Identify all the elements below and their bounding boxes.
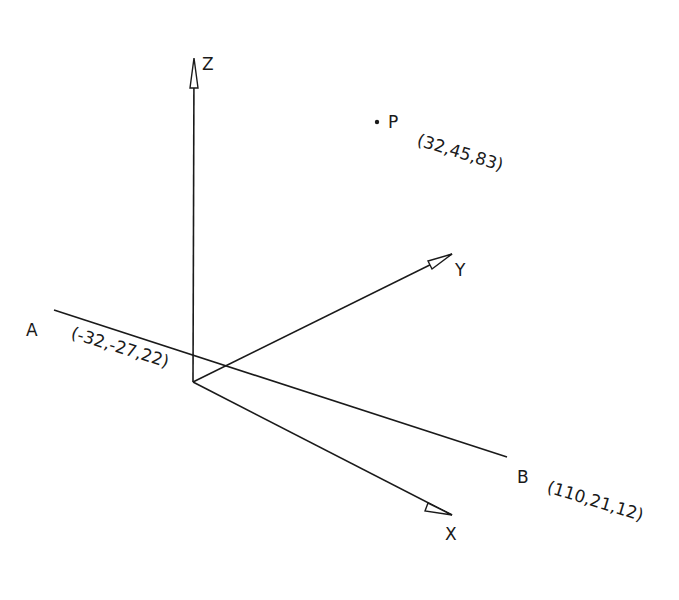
point-p-dot xyxy=(375,120,379,124)
x-arrow-icon xyxy=(425,503,452,515)
point-p-coords: (32,45,83) xyxy=(415,130,506,175)
z-axis-label: Z xyxy=(202,54,214,74)
z-arrow-icon xyxy=(190,58,198,88)
y-axis-label: Y xyxy=(454,260,466,280)
y-axis xyxy=(193,254,452,382)
point-a-label: A xyxy=(26,320,38,340)
point-b-coords: (110,21,12) xyxy=(545,477,646,525)
point-a-coords: (-32,-27,22) xyxy=(69,323,172,372)
z-axis xyxy=(190,58,198,382)
x-axis xyxy=(193,382,452,515)
point-p-label: P xyxy=(388,112,398,132)
line-ab xyxy=(54,310,507,457)
y-arrow-icon xyxy=(428,254,452,269)
3d-coordinate-diagram: Z Y X P (32,45,83) A (-32,-27,22) B (110… xyxy=(0,0,679,600)
x-axis-label: X xyxy=(445,524,457,544)
point-b-label: B xyxy=(517,467,529,487)
